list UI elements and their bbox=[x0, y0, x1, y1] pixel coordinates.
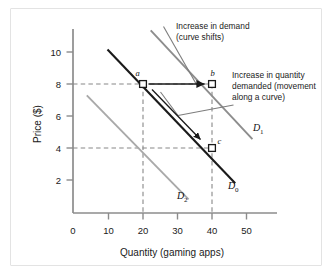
annotation-increase-in-quantity-demanded-line-2: demanded (movement bbox=[232, 81, 316, 91]
annotation-increase-in-quantity-demanded-line-1: Increase in quantity bbox=[232, 70, 305, 80]
curve-label-d1-subscript: 1 bbox=[260, 128, 264, 136]
annotation-increase-in-quantity-demanded: Increase in quantity demanded (movement … bbox=[232, 70, 316, 102]
movement-arrow-a-to-c bbox=[152, 90, 201, 140]
x-tick-label-40: 40 bbox=[207, 225, 218, 236]
x-tick-label-10: 10 bbox=[103, 225, 114, 236]
curve-label-d2: D 2 bbox=[176, 190, 188, 204]
annotation-increase-in-demand: Increase in demand (curve shifts) bbox=[176, 21, 250, 42]
x-axis-title: Quantity (gaming apps) bbox=[120, 247, 224, 258]
y-axis-tick-labels: 10 8 6 4 2 bbox=[50, 47, 61, 186]
x-tick-label-20: 20 bbox=[138, 225, 149, 236]
demand-curve-d0 bbox=[108, 50, 236, 184]
point-label-c: c bbox=[218, 136, 222, 146]
y-tick-label-6: 6 bbox=[56, 111, 61, 122]
annotation-increase-in-demand-line-1: Increase in demand bbox=[176, 21, 250, 31]
leader-increase-in-quantity-demanded-hook bbox=[161, 92, 179, 116]
x-tick-label-50: 50 bbox=[241, 225, 252, 236]
annotation-increase-in-demand-line-2: (curve shifts) bbox=[176, 32, 224, 42]
x-tick-label-30: 30 bbox=[172, 225, 183, 236]
data-point-c[interactable]: c bbox=[209, 136, 222, 151]
y-tick-label-4: 4 bbox=[56, 143, 61, 154]
demand-curve-figure: 10 8 6 4 2 0 10 20 30 40 50 Quantity (ga… bbox=[0, 0, 332, 278]
y-tick-label-2: 2 bbox=[56, 175, 61, 186]
y-axis-ticks bbox=[67, 52, 74, 180]
point-marker-c bbox=[209, 145, 216, 152]
point-marker-a bbox=[140, 81, 147, 88]
curve-label-d0: D 0 bbox=[227, 180, 239, 194]
x-axis-ticks bbox=[109, 213, 247, 220]
curve-label-d2-subscript: 2 bbox=[184, 196, 188, 204]
point-marker-b bbox=[209, 81, 216, 88]
annotation-increase-in-quantity-demanded-line-3: along a curve) bbox=[232, 92, 285, 102]
point-label-b: b bbox=[210, 68, 214, 78]
y-tick-label-10: 10 bbox=[50, 47, 61, 58]
data-point-b[interactable]: b bbox=[209, 68, 216, 87]
x-tick-label-0: 0 bbox=[70, 225, 75, 236]
chart-canvas: 10 8 6 4 2 0 10 20 30 40 50 Quantity (ga… bbox=[0, 0, 332, 278]
point-label-a: a bbox=[135, 68, 139, 78]
curve-label-d0-subscript: 0 bbox=[235, 186, 239, 194]
y-axis-title: Price ($) bbox=[32, 105, 43, 143]
x-axis-tick-labels: 0 10 20 30 40 50 bbox=[70, 225, 251, 236]
y-tick-label-8: 8 bbox=[56, 79, 61, 90]
curve-label-d1: D 1 bbox=[252, 122, 264, 136]
